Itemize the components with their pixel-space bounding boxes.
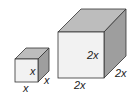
large-cube-depth-label: 2x: [114, 67, 127, 79]
small-cube-depth-label: x: [43, 74, 50, 86]
small-cube: x x x: [15, 48, 50, 94]
small-cube-front-label: x: [29, 65, 36, 77]
large-cube-bottom-label: 2x: [73, 79, 86, 91]
large-cube: 2x 2x 2x: [58, 9, 127, 91]
cubes-diagram: x x x 2x 2x 2x: [0, 0, 137, 96]
small-cube-bottom-label: x: [22, 82, 29, 94]
large-cube-front-label: 2x: [86, 49, 99, 61]
